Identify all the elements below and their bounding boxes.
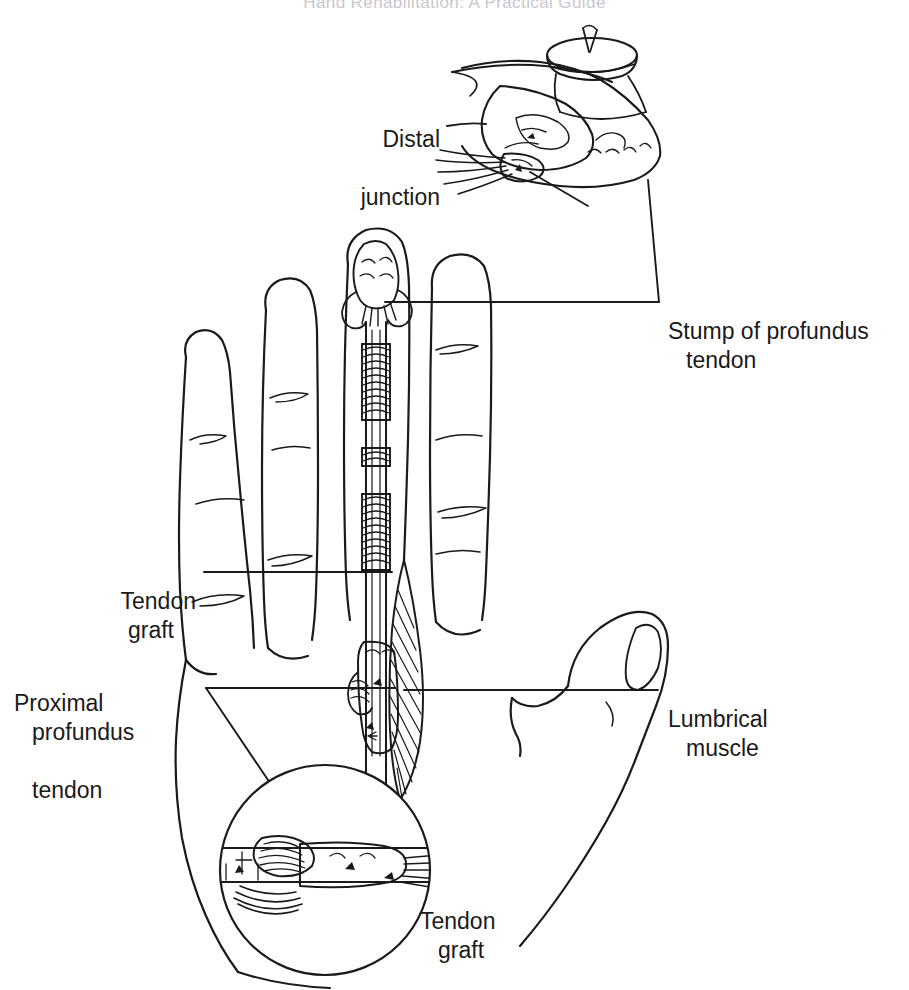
label-tendon-graft-upper-line1: Tendon bbox=[121, 588, 196, 614]
ring-finger-outline-left bbox=[262, 310, 268, 648]
label-tendon-graft-lower-line1: Tendon bbox=[420, 908, 495, 934]
leader-lines bbox=[204, 123, 659, 888]
ring-finger-outline bbox=[265, 278, 318, 640]
skin-creases bbox=[190, 345, 486, 606]
leader-distal-junction bbox=[447, 123, 486, 126]
thumb-nail bbox=[626, 625, 661, 690]
index-finger-outline-right bbox=[432, 254, 492, 620]
leader-stump-to-inset bbox=[648, 180, 659, 302]
profundus-stump-distal bbox=[342, 241, 412, 328]
label-tendon-graft-lower: Tendon graft bbox=[420, 878, 620, 990]
label-proximal-profundus-tendon: Proximal profundus tendon bbox=[14, 660, 214, 834]
distal-junction-inset bbox=[436, 25, 660, 206]
middle-finger-outline-right bbox=[347, 229, 409, 561]
index-finger-outline-left bbox=[430, 288, 436, 622]
label-tendon-graft-upper: Tendon graft bbox=[10, 558, 196, 674]
label-stump-of-profundus-tendon: Stump of profundus tendon bbox=[668, 288, 908, 404]
tendon-graft bbox=[342, 241, 412, 830]
label-proximal-line1: Proximal bbox=[14, 690, 103, 716]
label-tendon-graft-lower-line2: graft bbox=[420, 936, 620, 965]
thumb-web-crease bbox=[511, 698, 521, 756]
label-lumbrical-muscle: Lumbrical muscle bbox=[668, 676, 898, 792]
label-stump-line2: tendon bbox=[668, 346, 908, 375]
label-distal-junction-line2: junction bbox=[361, 184, 440, 210]
label-lumbrical-line1: Lumbrical bbox=[668, 706, 768, 732]
label-distal-junction-line1: Distal bbox=[382, 126, 440, 152]
label-proximal-line2: profundus bbox=[14, 718, 214, 747]
label-stump-line1: Stump of profundus bbox=[668, 318, 869, 344]
label-lumbrical-line2: muscle bbox=[668, 734, 898, 763]
lumbrical-muscle bbox=[389, 560, 423, 800]
label-tendon-graft-upper-line2: graft bbox=[10, 616, 196, 645]
proximal-junction-inset bbox=[210, 765, 454, 975]
figure-root: Hand Rehabilitation: A Practical Guide bbox=[0, 0, 909, 990]
label-proximal-line3: tendon bbox=[14, 776, 214, 805]
tendon-graft-illustration bbox=[0, 0, 909, 990]
middle-finger-outline-left bbox=[344, 264, 350, 620]
label-distal-junction: Distal junction bbox=[230, 96, 440, 212]
